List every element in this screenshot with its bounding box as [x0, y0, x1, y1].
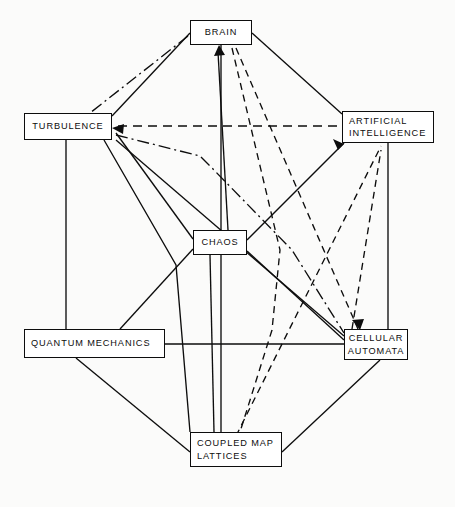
node-brain-label: BRAIN [205, 26, 238, 39]
node-turbulence[interactable]: TURBULENCE [24, 113, 112, 140]
node-cellular-label-line2: AUTOMATA [348, 345, 405, 358]
node-coupled-map-lattices[interactable]: COUPLED MAP LATTICES [190, 432, 282, 467]
edge-brain-turbulence-dashdot [90, 36, 188, 113]
diagram-canvas: BRAIN TURBULENCE ARTIFICIAL INTELLIGENCE… [0, 0, 455, 507]
node-quantum-mechanics[interactable]: QUANTUM MECHANICS [24, 329, 165, 358]
edge-chaos-brain [218, 52, 228, 230]
node-artificial-intelligence[interactable]: ARTIFICIAL INTELLIGENCE [342, 111, 434, 143]
arrowhead-into-brain [214, 45, 225, 56]
edge-chaos-ai [247, 143, 344, 240]
edge-turbulence-coupled [104, 140, 190, 432]
edge-cellular-coupled [282, 360, 380, 452]
edge-turbulence-brain [112, 33, 190, 116]
node-cellular-label-line1: CELLULAR [349, 332, 404, 345]
node-cellular-automata[interactable]: CELLULAR AUTOMATA [344, 329, 408, 360]
edge-coupled-ai-dashed [236, 146, 381, 436]
node-chaos-label: CHAOS [201, 236, 238, 249]
node-ai-label-line1: ARTIFICIAL [349, 115, 407, 128]
node-brain[interactable]: BRAIN [190, 20, 252, 45]
edge-chaos-turbulence [116, 133, 193, 239]
node-ai-label-line2: INTELLIGENCE [349, 127, 426, 140]
node-quantum-label: QUANTUM MECHANICS [31, 337, 150, 350]
edge-brain-ai [252, 33, 342, 114]
edge-brain-cellular-dashed [236, 48, 358, 329]
node-coupled-label-line2: LATTICES [197, 450, 247, 463]
edge-chaos-quantum [120, 249, 193, 329]
edge-quantum-coupled [76, 358, 190, 452]
node-chaos[interactable]: CHAOS [193, 230, 247, 255]
edge-cellular-ai-dashed [352, 150, 381, 329]
arrowheads [112, 45, 364, 330]
node-turbulence-label: TURBULENCE [32, 120, 103, 133]
node-coupled-label-line1: COUPLED MAP [197, 437, 274, 450]
